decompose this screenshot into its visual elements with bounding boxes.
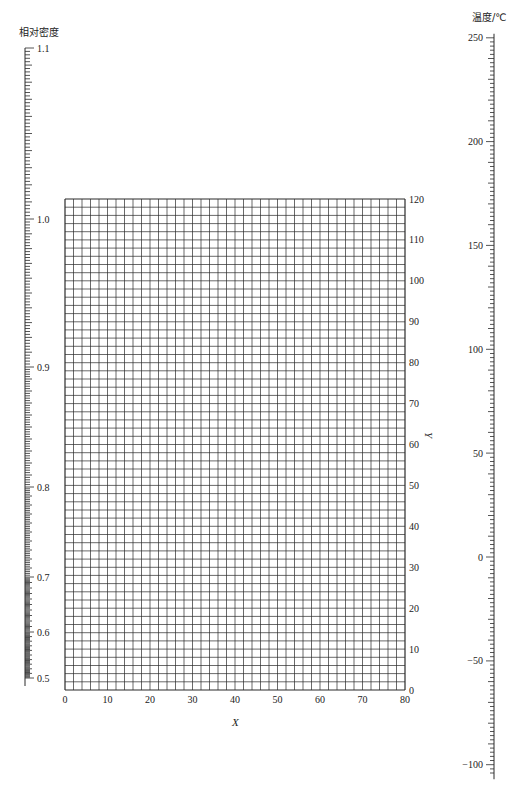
x-tick-label: 30 [188, 694, 198, 705]
y-tick-label: 70 [409, 398, 419, 409]
temperature-tick-label: −50 [467, 655, 483, 666]
temperature-tick-label: 50 [473, 448, 483, 459]
x-tick-label: 80 [400, 694, 410, 705]
temperature-tick-label: 100 [468, 344, 483, 355]
temperature-tick-label: 150 [468, 240, 483, 251]
nomogram-chart: 1.11.00.90.80.70.60.5 010203040506070800… [0, 0, 521, 792]
temperature-scale-title: 温度/℃ [472, 11, 507, 23]
density-tick-label: 1.1 [37, 43, 50, 54]
density-scale: 1.11.00.90.80.70.60.5 [25, 43, 50, 687]
x-tick-label: 0 [63, 694, 68, 705]
temperature-tick-label: 200 [468, 136, 483, 147]
x-tick-label: 20 [145, 694, 155, 705]
x-tick-label: 40 [230, 694, 240, 705]
y-tick-label: 0 [409, 685, 414, 696]
y-tick-label: 50 [409, 480, 419, 491]
x-tick-label: 70 [358, 694, 368, 705]
y-tick-label: 20 [409, 603, 419, 614]
density-tick-label: 1.0 [37, 214, 50, 225]
y-tick-label: 110 [409, 234, 424, 245]
density-tick-label: 0.8 [37, 482, 50, 493]
density-tick-label: 0.9 [37, 362, 50, 373]
density-scale-title: 相对密度 [19, 26, 59, 38]
y-tick-label: 40 [409, 521, 419, 532]
temperature-tick-label: 0 [478, 552, 483, 563]
temperature-tick-label: 250 [468, 32, 483, 43]
density-tick-label: 0.6 [37, 627, 50, 638]
xy-grid: 0102030405060708001020304050607080901001… [63, 194, 425, 706]
y-tick-label: 100 [409, 275, 424, 286]
x-axis-title: X [231, 716, 240, 728]
x-tick-label: 10 [103, 694, 113, 705]
y-tick-label: 120 [409, 194, 424, 205]
density-tick-label: 0.7 [37, 572, 50, 583]
x-tick-label: 50 [273, 694, 283, 705]
y-axis-title: Y [423, 432, 435, 440]
y-tick-label: 30 [409, 562, 419, 573]
density-tick-label: 0.5 [37, 673, 50, 684]
y-tick-label: 60 [409, 439, 419, 450]
y-tick-label: 10 [409, 644, 419, 655]
temperature-scale: 250200150100500−50−100 [462, 32, 494, 779]
y-tick-label: 80 [409, 357, 419, 368]
y-tick-label: 90 [409, 316, 419, 327]
temperature-tick-label: −100 [462, 759, 483, 770]
x-tick-label: 60 [315, 694, 325, 705]
